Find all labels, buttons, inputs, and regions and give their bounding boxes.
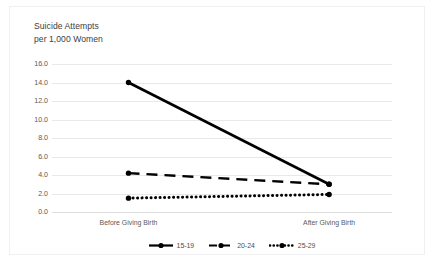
legend-item-15-19[interactable]: 15-19: [148, 241, 195, 250]
chart-title: Suicide Attempts per 1,000 Women: [34, 20, 103, 45]
legend-item-20-24[interactable]: 20-24: [208, 241, 255, 250]
data-point-20-24: [126, 170, 131, 175]
series-line-20-24: [129, 173, 330, 184]
y-axis-tick-label: 6.0: [14, 153, 48, 161]
chart-frame: Suicide Attempts per 1,000 Women 0.02.04…: [9, 6, 425, 255]
legend-item-25-29[interactable]: 25-29: [269, 241, 316, 250]
series-line-25-29: [129, 194, 330, 198]
x-axis-tick-labels: Before Giving BirthAfter Giving Birth: [52, 219, 392, 231]
y-axis-tick-label: 12.0: [14, 97, 48, 105]
data-point-20-24: [326, 182, 331, 187]
legend-key-dashed-icon: [208, 241, 234, 250]
legend-label: 25-29: [298, 242, 316, 249]
chart-title-line-1: Suicide Attempts: [34, 21, 99, 31]
data-point-25-29: [326, 192, 331, 197]
y-axis-tick-label: 2.0: [14, 190, 48, 198]
y-axis-tick-label: 16.0: [14, 60, 48, 68]
chart-legend: 15-1920-2425-29: [10, 241, 443, 250]
y-axis-tick-label: 0.0: [14, 208, 48, 216]
legend-label: 15-19: [177, 242, 195, 249]
series-line-15-19: [129, 83, 330, 185]
legend-label: 20-24: [237, 242, 255, 249]
series-overlay: [52, 64, 392, 212]
legend-key-dotted-icon: [269, 241, 295, 250]
x-axis-tick-label: Before Giving Birth: [100, 219, 158, 226]
y-axis-tick-label: 10.0: [14, 116, 48, 124]
y-axis-tick-labels: 0.02.04.06.08.010.012.014.016.0: [10, 64, 48, 212]
y-axis-tick-label: 8.0: [14, 134, 48, 142]
plot-area: [52, 64, 392, 212]
y-axis-tick-label: 14.0: [14, 79, 48, 87]
data-point-15-19: [126, 80, 131, 85]
chart-title-line-2: per 1,000 Women: [34, 34, 103, 44]
x-axis-tick-label: After Giving Birth: [303, 219, 355, 226]
y-axis-tick-label: 4.0: [14, 171, 48, 179]
legend-key-solid-icon: [148, 241, 174, 250]
data-point-25-29: [126, 195, 131, 200]
gridline: [52, 212, 392, 213]
